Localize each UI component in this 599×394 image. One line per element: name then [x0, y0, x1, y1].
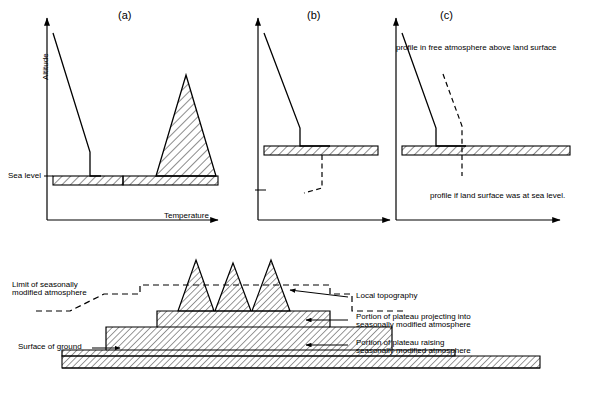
- panel-a-mountain: [156, 75, 216, 176]
- panel-a-ground-left: [53, 176, 123, 185]
- panel-b-plateau-surface: [264, 146, 378, 155]
- panel-letter-c: (c): [440, 10, 453, 22]
- annotation-sea-level-profile: profile if land surface was at sea level…: [430, 192, 565, 200]
- annotation-local-topography: Local topography: [356, 292, 417, 300]
- annotation-plateau-projecting: Portion of plateau projecting into seaso…: [356, 313, 471, 330]
- panel-c-profile-dashed: [443, 74, 462, 155]
- panel-letter-b: (b): [307, 10, 320, 22]
- panel-a-profile-flat: [53, 33, 101, 176]
- peak-2: [215, 263, 251, 311]
- x-axis-label: Temperature: [164, 212, 209, 220]
- panel-b: [255, 18, 390, 220]
- annotation-limit-modified-atmosphere: Limit of seasonally modified atmosphere: [12, 281, 87, 298]
- panel-b-profile-solid: [264, 33, 330, 146]
- panel-c-plateau-surface: [402, 146, 570, 155]
- y-axis-label: Altitude: [42, 53, 50, 80]
- annotation-surface-of-ground: Surface of ground: [18, 343, 82, 351]
- panel-a: [44, 18, 218, 220]
- panel-letter-a: (a): [118, 10, 131, 22]
- bedrock-band: [62, 356, 540, 368]
- annotation-free-atmosphere: profile in free atmosphere above land su…: [396, 44, 557, 52]
- sea-level-label: Sea level: [8, 172, 41, 180]
- annotation-plateau-raising: Portion of plateau raising seasonally mo…: [356, 339, 471, 356]
- panel-a-ground-right: [123, 176, 218, 185]
- panel-b-profile-dashed: [304, 155, 322, 193]
